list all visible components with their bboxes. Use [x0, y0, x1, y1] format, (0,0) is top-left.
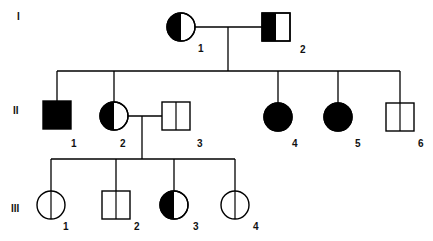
pedigree-diagram: 121234561234 IIIIII	[0, 0, 433, 241]
individual-ii-3-square-icon[interactable]	[162, 102, 190, 130]
individual-number-label: 1	[71, 138, 77, 149]
individual-number-label: 4	[292, 138, 298, 149]
individual-iii-4-circle-icon[interactable]	[221, 191, 249, 219]
generation-label-iii: III	[11, 203, 20, 214]
individual-iii-2-square-icon[interactable]	[102, 191, 130, 219]
individual-number-label: 2	[134, 221, 140, 232]
individual-number-label: 1	[198, 43, 204, 54]
individual-ii-1-square-icon[interactable]	[43, 101, 71, 129]
individual-number-label: 3	[193, 221, 199, 232]
individual-number-label: 5	[355, 138, 361, 149]
individual-ii-4-circle-icon[interactable]	[263, 102, 292, 131]
generation-label-ii: II	[13, 105, 19, 116]
individual-number-label: 4	[253, 221, 259, 232]
individual-i-1-circle-icon[interactable]	[167, 13, 195, 41]
individual-number-label: 2	[120, 138, 126, 149]
individual-number-label: 1	[63, 221, 69, 232]
individual-iii-1-circle-icon[interactable]	[37, 191, 65, 219]
individual-ii-6-square-icon[interactable]	[386, 103, 414, 131]
generation-labels: IIIIII	[11, 11, 20, 214]
individual-ii-2-circle-icon[interactable]	[100, 102, 128, 130]
individual-number-label: 6	[418, 138, 424, 149]
individual-iii-3-circle-icon[interactable]	[160, 191, 188, 219]
individual-i-2-square-icon[interactable]	[262, 13, 290, 41]
individual-number-label: 3	[197, 138, 203, 149]
generation-label-i: I	[17, 11, 20, 22]
individual-symbols	[37, 13, 414, 219]
individual-ii-5-circle-icon[interactable]	[323, 102, 352, 131]
individual-number-label: 2	[300, 44, 306, 55]
